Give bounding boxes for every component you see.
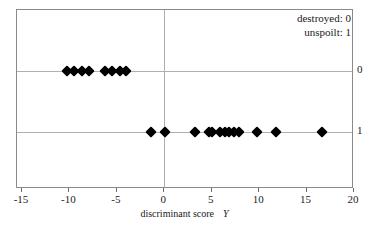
x-tick-label-20: 20 xyxy=(348,193,359,205)
chart-legend: destroyed: 0unspoilt: 1 xyxy=(297,11,351,39)
data-point xyxy=(189,126,200,137)
data-point xyxy=(316,126,327,137)
x-tick-label--5: -5 xyxy=(111,193,120,205)
legend-entry-0: destroyed: 0 xyxy=(297,11,351,25)
x-tick-label-10: 10 xyxy=(253,193,264,205)
x-tick-label-0: 0 xyxy=(161,193,167,205)
x-tick-label-15: 15 xyxy=(300,193,311,205)
x-axis-title-text: discriminant score xyxy=(140,208,214,219)
data-point xyxy=(145,126,156,137)
chart-figure: -15-10-50510152010 discriminant scoreY d… xyxy=(0,0,369,229)
gridline-y-0 xyxy=(17,132,352,133)
x-tick-mark--15 xyxy=(21,188,22,192)
gridline-x-0 xyxy=(164,10,165,187)
x-tick-mark-0 xyxy=(163,188,164,192)
x-tick-label-5: 5 xyxy=(208,193,214,205)
x-tick-mark-10 xyxy=(258,188,259,192)
x-tick-mark-15 xyxy=(306,188,307,192)
data-point xyxy=(84,65,95,76)
x-tick-mark-5 xyxy=(211,188,212,192)
legend-entry-1: unspoilt: 1 xyxy=(297,25,351,39)
x-tick-label--15: -15 xyxy=(14,193,29,205)
x-axis-title-symbol: Y xyxy=(214,208,229,219)
y-tick-label-0: 1 xyxy=(357,125,363,136)
y-tick-label-1: 0 xyxy=(357,64,363,75)
data-point xyxy=(252,126,263,137)
x-tick-mark--10 xyxy=(68,188,69,192)
x-tick-mark--5 xyxy=(116,188,117,192)
data-point xyxy=(121,65,132,76)
data-point xyxy=(160,126,171,137)
data-point xyxy=(271,126,282,137)
x-axis-title: discriminant scoreY xyxy=(0,208,369,220)
x-tick-label--10: -10 xyxy=(61,193,76,205)
x-tick-mark-20 xyxy=(353,188,354,192)
